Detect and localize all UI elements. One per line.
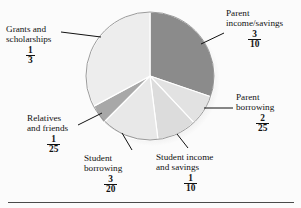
fraction-denominator: 25	[47, 144, 60, 155]
leader-line-relatives	[78, 113, 102, 125]
fraction-numerator: 1	[26, 46, 35, 56]
slice-label-line1: Relatives	[27, 113, 68, 123]
fraction-denominator: 3	[26, 55, 35, 66]
leader-line-grants	[61, 32, 101, 37]
fraction: 2 25	[256, 114, 269, 134]
slice-label-line1: Student income	[156, 152, 213, 162]
fraction-denominator: 10	[248, 39, 261, 50]
fraction-denominator: 10	[184, 183, 197, 194]
slice-label-relatives-and-friends: Relatives and friends 1 25	[27, 113, 68, 155]
fraction: 1 3	[26, 46, 35, 66]
slice-fraction: 1 3	[6, 45, 51, 66]
fraction-numerator: 3	[248, 30, 261, 40]
fraction-numerator: 1	[184, 174, 197, 184]
slice-label-line2: and savings	[156, 162, 213, 172]
slice-label-line1: Parent	[226, 8, 283, 18]
slice-label-line2: borrowing	[236, 102, 274, 112]
fraction-numerator: 3	[104, 175, 117, 185]
slice-label-line1: Student	[84, 153, 122, 163]
slice-fraction: 2 25	[236, 113, 274, 134]
slice-label-line2: scholarships	[6, 34, 51, 44]
pie-chart-figure: Grants and scholarships 1 3 Parent incom…	[0, 0, 301, 208]
slice-label-line1: Parent	[236, 92, 274, 102]
fraction-numerator: 1	[47, 135, 60, 145]
slice-label-line2: and friends	[27, 123, 68, 133]
slice-fraction: 1 25	[27, 134, 68, 155]
fraction: 1 25	[47, 135, 60, 155]
slice-label-line1: Grants and	[6, 24, 51, 34]
slice-label-line2: income/savings	[226, 18, 283, 28]
slice-label-line2: borrowing	[84, 163, 122, 173]
slice-label-parent-borrowing: Parent borrowing 2 25	[236, 92, 274, 134]
fraction: 3 20	[104, 175, 117, 195]
slice-fraction: 3 10	[226, 29, 283, 50]
fraction-denominator: 25	[256, 123, 269, 134]
slice-fraction: 1 10	[156, 173, 213, 194]
slice-label-grants-and-scholarships: Grants and scholarships 1 3	[6, 24, 51, 66]
fraction: 3 10	[248, 30, 261, 50]
fraction-denominator: 20	[104, 184, 117, 195]
baseline-rule	[8, 202, 294, 203]
slice-label-student-income-and-savings: Student income and savings 1 10	[156, 152, 213, 194]
fraction: 1 10	[184, 174, 197, 194]
slice-label-parent-income-savings: Parent income/savings 3 10	[226, 8, 283, 50]
slice-fraction: 3 20	[84, 174, 122, 195]
fraction-numerator: 2	[256, 114, 269, 124]
slice-label-student-borrowing: Student borrowing 3 20	[84, 153, 122, 195]
